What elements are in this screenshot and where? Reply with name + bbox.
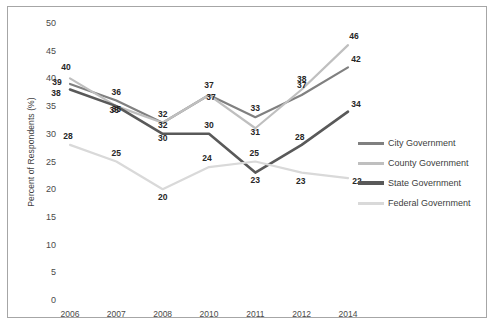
data-point-label: 42 [351, 55, 360, 64]
legend-label: City Government [388, 138, 456, 148]
legend-label: Federal Government [388, 198, 471, 208]
data-point-label: 38 [51, 89, 60, 98]
legend-item[interactable]: City Government [358, 133, 488, 153]
data-point-label: 39 [52, 77, 61, 86]
legend-swatch [358, 142, 384, 145]
data-point-label: 20 [158, 193, 167, 202]
data-point-label: 30 [158, 133, 167, 142]
data-point-label: 28 [295, 132, 304, 141]
data-point-label: 40 [61, 63, 70, 72]
legend-swatch [358, 202, 384, 205]
legend-item[interactable]: Federal Government [358, 193, 488, 213]
data-point-label: 31 [251, 128, 260, 137]
data-point-label: 32 [158, 120, 167, 129]
data-point-label: 38 [297, 75, 306, 84]
legend-label: State Government [388, 178, 461, 188]
data-point-label: 23 [296, 176, 305, 185]
data-point-label: 46 [349, 32, 358, 41]
chart-legend: City GovernmentCounty GovernmentState Go… [358, 133, 488, 213]
data-point-label: 25 [250, 148, 259, 157]
data-point-label: 32 [158, 109, 167, 118]
legend-item[interactable]: State Government [358, 173, 488, 193]
data-point-label: 28 [63, 131, 72, 140]
legend-item[interactable]: County Government [358, 153, 488, 173]
data-point-label: 33 [251, 104, 260, 113]
data-point-label: 36 [112, 87, 121, 96]
plot-frame: Percent of Respondents (%) 0510152025303… [7, 6, 487, 318]
legend-swatch [358, 181, 384, 185]
legend-label: County Government [388, 158, 469, 168]
line-chart-figure: Percent of Respondents (%) 0510152025303… [0, 0, 495, 333]
data-point-label: 25 [112, 148, 121, 157]
legend-swatch [358, 162, 384, 165]
data-point-label: 30 [204, 120, 213, 129]
data-point-label: 35 [110, 106, 119, 115]
data-point-label: 23 [251, 175, 260, 184]
data-point-label: 37 [206, 93, 215, 102]
data-point-label: 34 [351, 99, 360, 108]
data-point-label: 37 [204, 81, 213, 90]
data-point-label: 24 [202, 154, 211, 163]
